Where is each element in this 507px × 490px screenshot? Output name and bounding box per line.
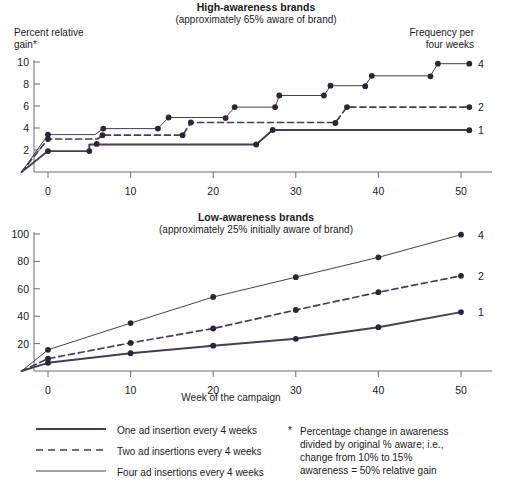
legend	[36, 429, 106, 471]
plot-high-awareness: 24681001020304050124	[17, 56, 492, 197]
data-point-low-awareness-4-0	[45, 347, 51, 353]
data-point-low-awareness-2-4	[376, 289, 382, 295]
data-point-low-awareness-4-1	[128, 320, 134, 326]
data-point-low-awareness-4-2	[210, 294, 216, 300]
data-point-high-awareness-4-9	[328, 83, 334, 89]
y-tick-label-low-awareness-4: 100	[11, 228, 29, 240]
x-tick-label-low-awareness-4: 40	[373, 384, 385, 396]
x-tick-label-low-awareness-5: 50	[455, 384, 467, 396]
chart-subtitle-low-awareness: (approximately 25% initially aware of br…	[141, 224, 371, 236]
series-end-label-low-awareness-1: 1	[478, 306, 484, 318]
series-end-label-low-awareness-4: 4	[478, 229, 484, 241]
data-point-high-awareness-4-4	[223, 115, 229, 121]
legend-label-1: Two ad insertions every 4 weeks	[117, 446, 262, 458]
data-point-high-awareness-2-1	[100, 132, 106, 138]
chart-subtitle-high-awareness: (approximately 65% aware of brand)	[156, 14, 356, 26]
data-point-low-awareness-2-3	[293, 307, 299, 313]
y-tick-label-low-awareness-0: 20	[17, 338, 29, 350]
data-point-high-awareness-1-0	[45, 148, 51, 154]
data-point-high-awareness-1-3	[253, 142, 259, 148]
data-point-low-awareness-4-5	[458, 232, 464, 238]
series-end-label-high-awareness-4: 4	[478, 58, 484, 70]
series-end-label-high-awareness-1: 1	[478, 124, 484, 136]
footnote-line4: awareness = 50% relative gain	[300, 464, 500, 477]
chart-canvas: 2468100102030405012420406080100010203040…	[0, 0, 507, 490]
y-tick-label-high-awareness-2: 6	[23, 100, 29, 112]
data-point-low-awareness-2-2	[210, 326, 216, 332]
x-tick-label-high-awareness-4: 40	[373, 185, 385, 197]
series-line-high-awareness-2	[22, 107, 470, 172]
data-point-high-awareness-4-10	[362, 83, 368, 89]
data-point-high-awareness-2-5	[344, 104, 350, 110]
data-point-high-awareness-4-2	[155, 126, 161, 132]
y-axis-label-line2-high-awareness: gain*	[14, 39, 37, 51]
series-line-high-awareness-4	[22, 64, 470, 172]
data-point-high-awareness-4-12	[428, 73, 434, 79]
data-point-high-awareness-2-2	[180, 132, 186, 138]
y-tick-label-low-awareness-3: 80	[17, 255, 29, 267]
data-point-high-awareness-1-2	[94, 141, 100, 147]
data-point-high-awareness-1-4	[270, 127, 276, 133]
data-point-high-awareness-2-6	[466, 104, 472, 110]
data-point-high-awareness-4-6	[272, 104, 278, 110]
data-point-high-awareness-4-8	[321, 93, 327, 99]
data-point-high-awareness-4-3	[166, 115, 172, 121]
data-point-low-awareness-4-3	[293, 274, 299, 280]
data-point-high-awareness-2-3	[188, 120, 194, 126]
y-tick-label-low-awareness-2: 60	[17, 283, 29, 295]
data-point-low-awareness-1-1	[128, 350, 134, 356]
data-point-low-awareness-2-5	[458, 273, 464, 279]
plot-low-awareness: 2040608010001020304050124	[11, 228, 492, 396]
data-point-high-awareness-2-4	[333, 120, 339, 126]
data-point-high-awareness-4-1	[100, 126, 106, 132]
chart-figure: 2468100102030405012420406080100010203040…	[0, 0, 507, 490]
y-tick-label-high-awareness-3: 8	[23, 78, 29, 90]
series-line-low-awareness-1	[22, 312, 461, 371]
series-end-label-high-awareness-2: 2	[478, 101, 484, 113]
data-point-low-awareness-2-1	[128, 340, 134, 346]
x-axis-label: Week of the campaign	[151, 392, 311, 404]
data-point-high-awareness-1-5	[466, 127, 472, 133]
x-tick-label-high-awareness-0: 0	[45, 185, 51, 197]
footnote-line3: change from 10% to 15%	[300, 451, 500, 464]
legend-label-0: One ad insertion every 4 weeks	[117, 425, 257, 437]
data-point-high-awareness-4-11	[369, 73, 375, 79]
x-tick-label-low-awareness-0: 0	[45, 384, 51, 396]
frequency-header-line2: four weeks	[396, 39, 474, 51]
data-point-high-awareness-4-13	[435, 61, 441, 67]
data-point-low-awareness-1-3	[293, 336, 299, 342]
data-point-high-awareness-4-0	[45, 132, 51, 138]
y-tick-label-high-awareness-4: 10	[17, 56, 29, 68]
x-tick-label-high-awareness-3: 30	[290, 185, 302, 197]
footnote-line1: Percentage change in awareness	[300, 425, 500, 438]
data-point-low-awareness-2-0	[45, 356, 51, 362]
frequency-header-line1: Frequency per	[396, 27, 474, 39]
data-point-low-awareness-1-4	[376, 324, 382, 330]
x-tick-label-high-awareness-5: 50	[455, 185, 467, 197]
data-point-low-awareness-1-2	[210, 343, 216, 349]
y-axis-label-line1-high-awareness: Percent relative	[14, 27, 83, 39]
footnote-marker: *	[288, 424, 298, 437]
y-tick-label-high-awareness-1: 4	[23, 122, 29, 134]
x-tick-label-high-awareness-2: 20	[207, 185, 219, 197]
footnote-line2: divided by original % aware; i.e.,	[300, 438, 500, 451]
y-tick-label-low-awareness-1: 40	[17, 310, 29, 322]
x-tick-label-low-awareness-1: 10	[125, 384, 137, 396]
series-end-label-low-awareness-2: 2	[478, 270, 484, 282]
y-tick-label-high-awareness-0: 2	[23, 144, 29, 156]
data-point-low-awareness-4-4	[376, 254, 382, 260]
data-point-high-awareness-4-7	[276, 93, 282, 99]
chart-title-high-awareness: High-awareness brands	[176, 1, 336, 13]
chart-title-low-awareness: Low-awareness brands	[176, 211, 336, 223]
legend-label-2: Four ad insertions every 4 weeks	[117, 467, 264, 479]
data-point-high-awareness-1-1	[86, 148, 92, 154]
data-point-high-awareness-4-5	[232, 104, 238, 110]
data-point-high-awareness-4-14	[466, 61, 472, 67]
data-point-low-awareness-1-5	[458, 309, 464, 315]
x-tick-label-high-awareness-1: 10	[125, 185, 137, 197]
